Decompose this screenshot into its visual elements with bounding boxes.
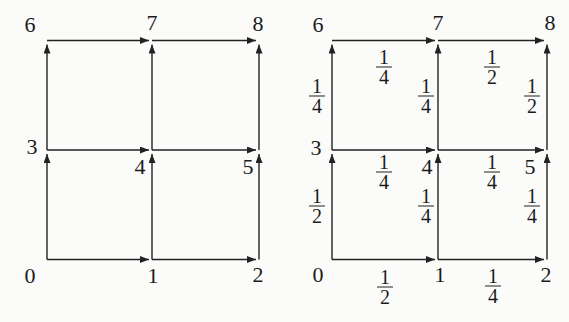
fraction-denominator: 2	[377, 288, 393, 305]
left-node-label-8: 8	[253, 13, 264, 35]
fraction-denominator: 4	[418, 207, 434, 224]
left-node-label-6: 6	[25, 14, 36, 36]
right-node-label-4: 4	[422, 156, 433, 178]
right-edge-label-0-3: 1 2	[309, 189, 325, 224]
right-edge-label-4-5: 1 4	[484, 155, 500, 190]
fraction-denominator: 4	[418, 97, 434, 114]
figure-two-grid-graphs: 0 1 2 3 4 5 6 7 8 0 1 2 3 4 5 6 7 8 1 4 …	[0, 0, 569, 322]
right-node-label-1: 1	[435, 264, 446, 286]
fraction-denominator: 4	[376, 68, 392, 85]
right-edge-label-4-7: 1 4	[418, 79, 434, 114]
fraction-denominator: 2	[484, 68, 500, 85]
fraction-denominator: 4	[376, 173, 392, 190]
right-edge-label-3-6: 1 4	[309, 79, 325, 114]
right-edge-label-5-8: 1 2	[524, 79, 540, 114]
left-node-label-7: 7	[147, 12, 158, 34]
left-node-label-1: 1	[148, 265, 159, 287]
left-node-label-3: 3	[27, 136, 38, 158]
fraction-denominator: 4	[524, 207, 540, 224]
right-edge-label-1-4: 1 4	[418, 189, 434, 224]
right-node-label-3: 3	[311, 137, 322, 159]
right-edge-label-7-8: 1 2	[484, 50, 500, 85]
right-diagram-edges	[332, 41, 547, 260]
right-node-label-7: 7	[433, 12, 444, 34]
right-edge-label-6-7: 1 4	[376, 50, 392, 85]
left-diagram-edges	[47, 41, 259, 260]
right-edge-label-2-5: 1 4	[524, 189, 540, 224]
left-node-label-4: 4	[135, 156, 146, 178]
fraction-denominator: 4	[484, 173, 500, 190]
fraction-denominator: 2	[524, 97, 540, 114]
left-node-label-0: 0	[25, 265, 36, 287]
right-edge-label-3-4: 1 4	[376, 155, 392, 190]
right-node-label-2: 2	[541, 264, 552, 286]
fraction-denominator: 4	[485, 287, 501, 304]
right-node-label-8: 8	[545, 12, 556, 34]
fraction-denominator: 4	[309, 97, 325, 114]
right-node-label-6: 6	[313, 14, 324, 36]
fraction-denominator: 2	[309, 207, 325, 224]
right-edge-label-0-1: 1 2	[377, 270, 393, 305]
right-edge-label-1-2: 1 4	[485, 269, 501, 304]
left-node-label-2: 2	[253, 264, 264, 286]
right-node-label-5: 5	[525, 156, 536, 178]
right-node-label-0: 0	[313, 264, 324, 286]
left-node-label-5: 5	[243, 156, 254, 178]
